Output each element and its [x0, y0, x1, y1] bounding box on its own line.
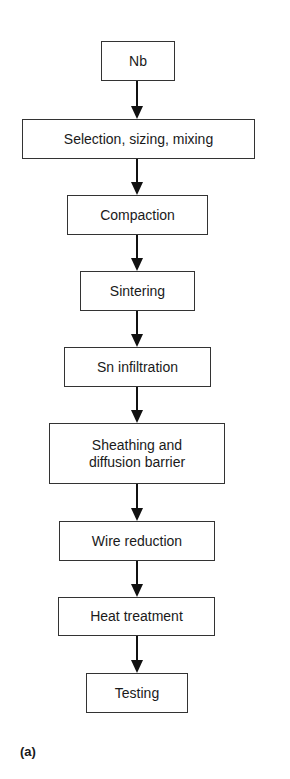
step-label: Nb [129, 53, 147, 70]
step-label: Testing [115, 685, 159, 702]
step-label: Heat treatment [90, 608, 183, 625]
step-label: Selection, sizing, mixing [64, 131, 213, 148]
step-nb: Nb [101, 41, 175, 81]
step-testing: Testing [86, 673, 188, 713]
panel-label: (a) [20, 744, 36, 759]
step-label: Sn infiltration [97, 359, 178, 376]
step-label: Compaction [100, 207, 175, 224]
step-label: Wire reduction [92, 533, 182, 550]
step-selection-sizing-mixing: Selection, sizing, mixing [22, 119, 255, 159]
step-label: Sintering [110, 283, 165, 300]
step-sheathing-diffusion-barrier: Sheathing and diffusion barrier [49, 423, 225, 484]
step-wire-reduction: Wire reduction [59, 521, 215, 561]
step-label: Sheathing and diffusion barrier [89, 437, 185, 471]
step-sn-infiltration: Sn infiltration [64, 347, 211, 387]
step-compaction: Compaction [67, 195, 208, 235]
step-sintering: Sintering [80, 271, 195, 311]
step-heat-treatment: Heat treatment [58, 597, 215, 636]
